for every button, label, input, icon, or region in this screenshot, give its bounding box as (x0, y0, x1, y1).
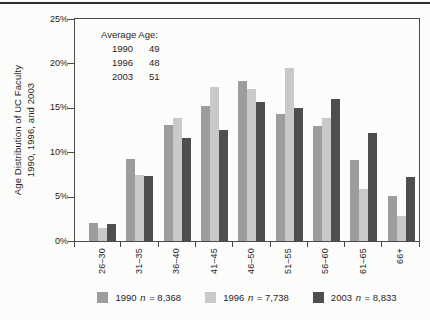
x-tick-label-text-31-35: 31–35 (134, 248, 144, 274)
annotation-age-1996: 48 (149, 56, 160, 70)
x-tick-label-text-26-30: 26–30 (97, 248, 107, 274)
y-axis-title-line1: Age Distribution of UC Faculty (11, 20, 24, 240)
age-distribution-chart: Age Distribution of UC Faculty 1990, 199… (0, 0, 430, 320)
x-tick-label-text-61-65: 61–65 (358, 248, 368, 274)
bar-1990-31-35 (126, 159, 135, 241)
y-tick-mark-20 (68, 63, 74, 64)
legend-swatch-1996 (205, 292, 216, 303)
legend-label-1990: 1990 n = 8,368 (115, 292, 181, 303)
bar-group-66plus (382, 19, 419, 241)
x-tick-mark-6 (307, 242, 308, 247)
bar-2003-36-40 (182, 138, 191, 241)
bar-1990-26-30 (89, 223, 98, 241)
bar-1990-46-50 (238, 81, 247, 241)
y-tick-label-15: 15% (26, 102, 68, 113)
bar-1996-36-40 (173, 118, 182, 241)
x-tick-mark-3 (195, 242, 196, 247)
legend-label-1996: 1996 n = 7,738 (223, 292, 289, 303)
annotation-year-2003: 2003 (112, 70, 149, 84)
bar-1996-61-65 (359, 189, 368, 241)
bar-2003-61-65 (368, 133, 377, 241)
y-tick-mark-10 (68, 152, 74, 153)
annotation-row-1990: 199049 (101, 42, 160, 56)
y-tick-label-5: 5% (26, 191, 68, 202)
x-tick-label-text-66plus: 66+ (395, 248, 405, 264)
bar-group-36-40 (159, 19, 196, 241)
bar-2003-26-30 (107, 224, 116, 241)
annotation-age-1990: 49 (149, 42, 160, 56)
bar-1990-61-65 (350, 160, 359, 241)
x-tick-label-text-46-50: 46–50 (246, 248, 256, 274)
bar-1996-66plus (397, 216, 406, 241)
bar-2003-46-50 (256, 102, 265, 241)
bar-group-46-50 (233, 19, 270, 241)
bar-1996-26-30 (98, 228, 107, 241)
top-rule (0, 2, 430, 4)
annotation-year-1996: 1996 (112, 56, 149, 70)
bar-1996-51-55 (285, 68, 294, 241)
x-tick-mark-8 (381, 242, 382, 247)
y-tick-label-20: 20% (26, 58, 68, 69)
y-tick-label-10: 10% (26, 147, 68, 158)
annotation-age-2003: 51 (149, 70, 160, 84)
y-axis-title-line2: 1990, 1996, and 2003 (24, 20, 37, 240)
y-tick-label-25: 25% (26, 14, 68, 25)
bar-1990-66plus (388, 196, 397, 241)
y-tick-label-0: 0% (26, 236, 68, 247)
annotation-title: Average Age: (101, 28, 160, 42)
x-tick-label-text-51-55: 51–55 (283, 248, 293, 274)
bar-2003-66plus (406, 177, 415, 241)
bar-2003-56-60 (331, 99, 340, 241)
bar-1996-56-60 (322, 118, 331, 241)
x-tick-mark-1 (120, 242, 121, 247)
average-age-annotation: Average Age: 199049199648200351 (101, 28, 160, 84)
bar-1990-41-45 (201, 106, 210, 241)
bar-1996-41-45 (210, 87, 219, 241)
bar-2003-51-55 (294, 108, 303, 241)
annotation-year-1990: 1990 (112, 42, 149, 56)
x-tick-mark-5 (270, 242, 271, 247)
bar-2003-41-45 (219, 130, 228, 241)
bar-group-56-60 (308, 19, 345, 241)
legend-item-1996: 1996 n = 7,738 (205, 292, 289, 303)
x-tick-mark-4 (232, 242, 233, 247)
legend-item-2003: 2003 n = 8,833 (313, 292, 397, 303)
x-tick-label-text-41-45: 41–45 (209, 248, 219, 274)
x-tick-mark-2 (158, 242, 159, 247)
y-axis-title: Age Distribution of UC Faculty 1990, 199… (11, 20, 37, 240)
bar-1990-51-55 (276, 114, 285, 241)
legend-item-1990: 1990 n = 8,368 (97, 292, 181, 303)
legend-swatch-2003 (313, 292, 324, 303)
legend: 1990 n = 8,3681996 n = 7,7382003 n = 8,8… (74, 292, 420, 303)
bar-group-51-55 (270, 19, 307, 241)
x-tick-label-text-36-40: 36–40 (171, 248, 181, 274)
bar-1990-36-40 (164, 125, 173, 241)
y-tick-mark-5 (68, 197, 74, 198)
bar-2003-31-35 (144, 176, 153, 241)
x-tick-mark-7 (344, 242, 345, 247)
bar-1996-31-35 (135, 175, 144, 241)
annotation-row-1996: 199648 (101, 56, 160, 70)
legend-label-2003: 2003 n = 8,833 (331, 292, 397, 303)
x-tick-mark-9 (419, 242, 420, 247)
legend-swatch-1990 (97, 292, 108, 303)
y-tick-mark-25 (68, 19, 74, 20)
x-tick-label-text-56-60: 56–60 (320, 248, 330, 274)
annotation-row-2003: 200351 (101, 70, 160, 84)
bar-group-61-65 (345, 19, 382, 241)
bar-1990-56-60 (313, 126, 322, 241)
y-tick-mark-15 (68, 108, 74, 109)
bar-group-41-45 (196, 19, 233, 241)
x-tick-mark-0 (74, 242, 75, 247)
bar-1996-46-50 (247, 89, 256, 241)
